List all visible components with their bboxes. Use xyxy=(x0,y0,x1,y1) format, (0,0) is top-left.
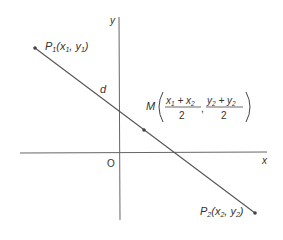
y-axis-label: y xyxy=(109,15,116,26)
p2-label: P2(x2, y2) xyxy=(200,205,244,218)
p1-label: P1(x1, y1) xyxy=(45,40,89,53)
x-axis-label: x xyxy=(261,155,268,166)
midpoint-label: M x1 + x2 2 , y2 + y2 2 xyxy=(146,92,250,122)
left-paren xyxy=(159,92,163,122)
svg-text:2: 2 xyxy=(221,110,227,121)
right-paren xyxy=(246,92,250,122)
segment-label: d xyxy=(100,83,107,95)
point-m xyxy=(142,128,146,132)
svg-text:M: M xyxy=(146,100,156,112)
point-p2 xyxy=(253,211,257,215)
origin-label: O xyxy=(107,158,115,169)
svg-text:y2 + y2: y2 + y2 xyxy=(206,95,236,107)
y-axis xyxy=(119,17,120,220)
svg-text:x1 + x2: x1 + x2 xyxy=(165,95,195,107)
midpoint-diagram: y x O d P1(x1, y1) P2(x2, y2) M x1 + x2 … xyxy=(0,0,283,240)
svg-text:2: 2 xyxy=(179,110,185,121)
x-axis xyxy=(20,152,267,153)
point-p1 xyxy=(33,46,37,50)
svg-text:,: , xyxy=(201,103,204,114)
